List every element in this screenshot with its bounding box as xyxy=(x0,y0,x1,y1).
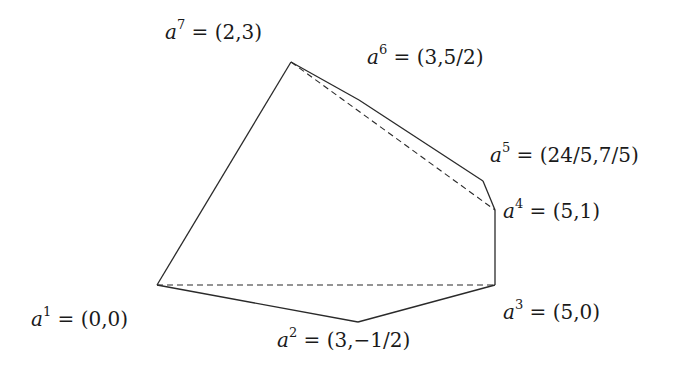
vertex-coords: (2,3) xyxy=(215,20,262,44)
vertex-coords: (0,0) xyxy=(81,307,128,331)
vertex-coords: (3,5/2) xyxy=(417,45,484,69)
vertex-coords: (5,0) xyxy=(553,300,600,324)
diagonal-a7-a4 xyxy=(291,62,495,210)
vertex-symbol: a xyxy=(31,307,43,331)
vertex-label-a7: a7 = (2,3) xyxy=(165,22,262,42)
vertex-symbol: a xyxy=(490,143,502,167)
vertex-label-a5: a5 = (24/5,7/5) xyxy=(490,145,639,165)
vertex-symbol: a xyxy=(367,45,379,69)
vertex-label-a2: a2 = (3,−1/2) xyxy=(277,330,410,350)
vertex-index: 3 xyxy=(515,297,523,312)
edge-a6-a7 xyxy=(291,62,359,100)
vertex-label-a3: a3 = (5,0) xyxy=(503,302,600,322)
dashed-diagonals xyxy=(157,62,495,285)
vertex-index: 7 xyxy=(177,17,185,32)
vertex-label-a4: a4 = (5,1) xyxy=(503,201,600,221)
vertex-coords: (3,−1/2) xyxy=(327,328,411,352)
vertex-index: 1 xyxy=(43,304,51,319)
edge-a7-a1 xyxy=(157,62,291,285)
vertex-index: 2 xyxy=(289,325,297,340)
vertex-coords: (5,1) xyxy=(553,199,600,223)
vertex-index: 4 xyxy=(515,196,523,211)
edge-a5-a6 xyxy=(359,100,483,181)
edge-a1-a2 xyxy=(157,285,358,322)
vertex-label-a1: a1 = (0,0) xyxy=(31,309,128,329)
polygon-edges xyxy=(157,62,495,322)
edge-a2-a3 xyxy=(358,285,495,322)
vertex-coords: (24/5,7/5) xyxy=(540,143,639,167)
vertex-symbol: a xyxy=(503,300,515,324)
vertex-symbol: a xyxy=(503,199,515,223)
vertex-symbol: a xyxy=(277,328,289,352)
vertex-index: 5 xyxy=(502,140,510,155)
vertex-index: 6 xyxy=(379,42,387,57)
vertex-symbol: a xyxy=(165,20,177,44)
vertex-label-a6: a6 = (3,5/2) xyxy=(367,47,484,67)
